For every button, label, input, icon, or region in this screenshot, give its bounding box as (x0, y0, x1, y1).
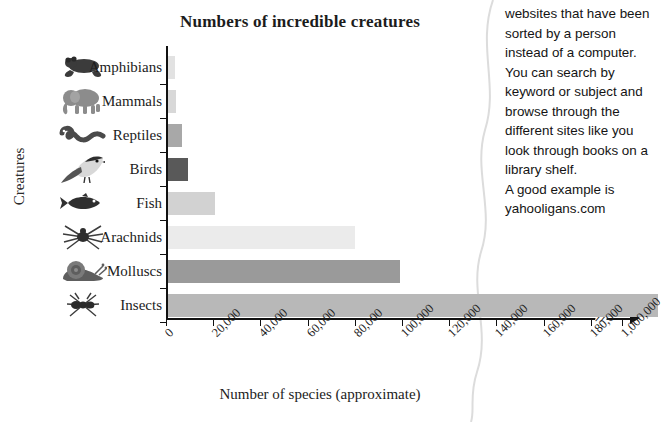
bar-amphibians (168, 56, 175, 79)
category-label-insects: Insects (50, 288, 162, 322)
category-label-arachnids: Arachnids (50, 220, 162, 254)
category-label-amphibians: Amphibians (50, 50, 162, 84)
x-axis-tick-label: 0 (162, 326, 177, 341)
category-label-molluscs: Molluscs (50, 254, 162, 288)
table-row: Arachnids (0, 220, 658, 254)
table-row: Molluscs (0, 254, 658, 288)
bar-arachnids (168, 226, 355, 249)
bar-reptiles (168, 124, 182, 147)
bar-mammals (168, 90, 176, 113)
side-text-paragraph: websites that have been sorted by a pers… (505, 6, 649, 177)
side-text-example-line-2: yahooligans.com (505, 201, 606, 216)
x-axis-title: Number of species (approximate) (150, 386, 490, 403)
category-label-mammals: Mammals (50, 84, 162, 118)
bar-birds (168, 158, 188, 181)
category-label-birds: Birds (50, 152, 162, 186)
bar-molluscs (168, 260, 400, 283)
side-text-panel: websites that have been sorted by a pers… (505, 4, 655, 219)
category-label-reptiles: Reptiles (50, 118, 162, 152)
bar-fish (168, 192, 215, 215)
chart-title: Numbers of incredible creatures (120, 12, 480, 32)
category-label-fish: Fish (50, 186, 162, 220)
side-text-example-line-1: A good example is (505, 182, 614, 197)
